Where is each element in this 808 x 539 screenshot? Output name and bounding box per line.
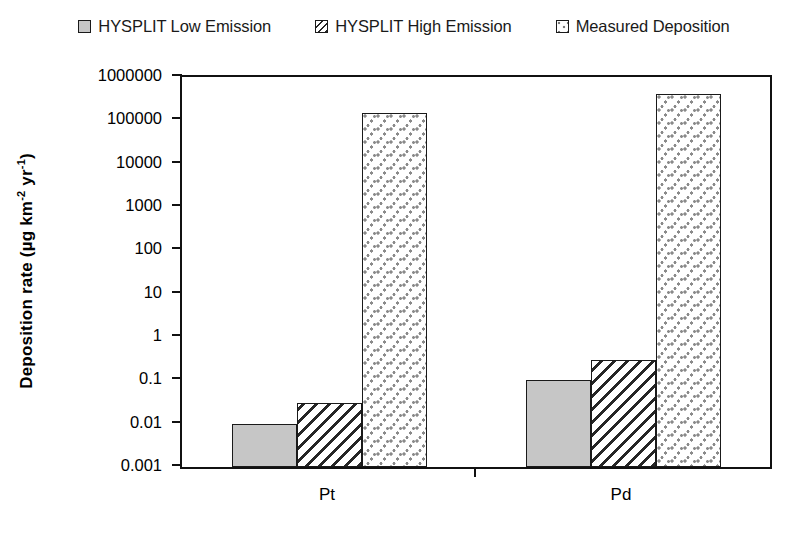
y-axis-tick-label: 100000 (107, 109, 162, 128)
bar (591, 360, 656, 467)
legend-label-measured-deposition: Measured Deposition (576, 18, 730, 35)
bar (362, 113, 427, 467)
y-axis-tick-label: 10000 (116, 152, 162, 171)
plot-bars-layer (182, 77, 770, 467)
y-axis-tick-label: 0.01 (130, 412, 162, 431)
chart-legend: HYSPLIT Low Emission HYSPLIT High Emissi… (0, 18, 808, 35)
legend-swatch-diagonal-hatch-icon (315, 20, 328, 33)
y-axis-tick-label: 0.1 (139, 369, 162, 388)
legend-item-measured-deposition: Measured Deposition (556, 18, 730, 35)
legend-label-hysplit-low-emission: HYSPLIT Low Emission (98, 18, 271, 35)
x-axis-tick-label: Pd (611, 485, 632, 505)
y-axis-tick-label: 0.001 (121, 456, 162, 475)
legend-item-hysplit-high-emission: HYSPLIT High Emission (315, 18, 511, 35)
bar (297, 403, 362, 467)
bar (232, 424, 297, 467)
y-axis-tick-label: 1000000 (98, 66, 162, 85)
y-axis-tick-label: 1000 (125, 196, 162, 215)
legend-item-hysplit-low-emission: HYSPLIT Low Emission (78, 18, 271, 35)
x-axis-tick-label: Pt (319, 485, 335, 505)
chart-figure: HYSPLIT Low Emission HYSPLIT High Emissi… (0, 0, 808, 539)
x-axis-category-separator-tick (474, 467, 476, 477)
y-axis-tick-label: 10 (144, 282, 162, 301)
y-axis-tick-label: 1 (153, 326, 162, 345)
x-axis-tick-labels: PtPd (180, 485, 768, 515)
legend-label-hysplit-high-emission: HYSPLIT High Emission (335, 18, 511, 35)
legend-swatch-solid-gray-icon (78, 20, 91, 33)
bar (656, 94, 721, 467)
y-axis-tick-labels: 0.0010.010.11101001000100001000001000000 (0, 75, 172, 465)
bar (526, 380, 591, 467)
plot-area (180, 75, 772, 469)
legend-swatch-dots-icon (556, 20, 569, 33)
y-axis-tick-label: 100 (134, 239, 162, 258)
